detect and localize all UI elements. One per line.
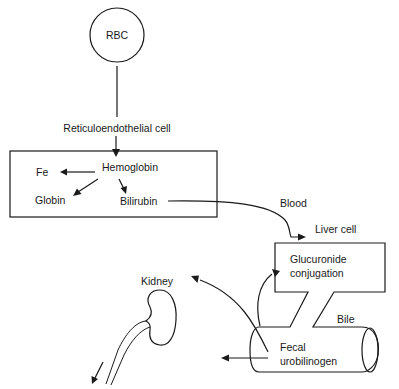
hemoglobin-label: Hemoglobin bbox=[102, 161, 158, 173]
rbc-label: RBC bbox=[106, 29, 129, 41]
kidney-shape bbox=[146, 290, 176, 345]
arrow-head-icon bbox=[60, 169, 67, 176]
fecal-to-glucuronide-line bbox=[258, 274, 272, 326]
fecal-label-line1: Fecal bbox=[280, 341, 306, 353]
intestine-end-ellipse bbox=[362, 328, 378, 372]
hemoglobin-to-globin-line bbox=[78, 179, 98, 192]
bilirubin-label: Bilirubin bbox=[120, 195, 158, 207]
urine-excretion-line bbox=[95, 362, 103, 378]
bilirubin-pathway-diagram: RBC Reticuloendothelial cell Hemoglobin … bbox=[0, 0, 399, 389]
fecal-label-line2: urobilinogen bbox=[280, 355, 337, 367]
glucuronide-label-line2: conjugation bbox=[290, 267, 344, 279]
arrow-head-icon bbox=[73, 189, 82, 197]
arrow-head-icon bbox=[298, 234, 306, 241]
reticuloendothelial-cell-label: Reticuloendothelial cell bbox=[63, 122, 170, 134]
blood-label: Blood bbox=[280, 197, 307, 209]
arrow-head-icon bbox=[272, 269, 280, 277]
glucuronide-label-line1: Glucuronide bbox=[290, 253, 347, 265]
rbc-node: RBC bbox=[90, 8, 144, 62]
globin-label: Globin bbox=[35, 194, 66, 206]
kidney-label: Kidney bbox=[141, 275, 174, 287]
arrow-head-icon bbox=[121, 186, 128, 194]
arrow-head-icon bbox=[221, 355, 229, 362]
liver-cell-label: Liver cell bbox=[315, 223, 356, 235]
arrow-head-icon bbox=[191, 276, 199, 284]
ureter-line-2 bbox=[111, 327, 150, 385]
arrow-head-icon bbox=[112, 149, 120, 157]
fe-label: Fe bbox=[36, 166, 48, 178]
ureter-line-1 bbox=[106, 321, 146, 384]
bile-label: Bile bbox=[337, 313, 355, 325]
